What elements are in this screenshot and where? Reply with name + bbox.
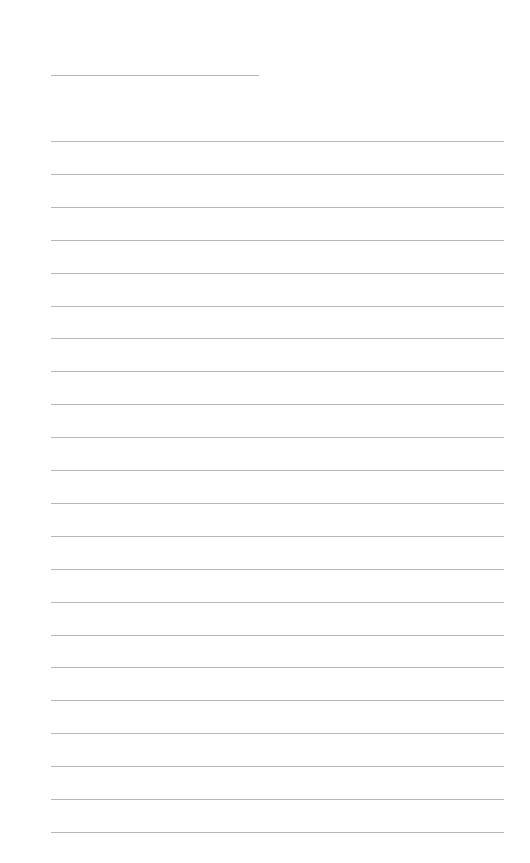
ruled-line [51, 733, 504, 734]
ruled-line [51, 766, 504, 767]
ruled-line [51, 799, 504, 800]
ruled-line [51, 174, 504, 175]
ruled-line [51, 635, 504, 636]
ruled-line [51, 141, 504, 142]
ruled-line [51, 667, 504, 668]
ruled-line [51, 404, 504, 405]
ruled-line [51, 273, 504, 274]
ruled-line [51, 371, 504, 372]
ruled-line [51, 569, 504, 570]
header-line [51, 75, 259, 76]
ruled-line [51, 602, 504, 603]
ruled-line [51, 306, 504, 307]
ruled-line [51, 470, 504, 471]
ruled-line [51, 207, 504, 208]
ruled-line [51, 700, 504, 701]
ruled-line [51, 338, 504, 339]
ruled-line [51, 536, 504, 537]
ruled-line [51, 240, 504, 241]
ruled-line [51, 503, 504, 504]
ruled-line [51, 437, 504, 438]
ruled-line [51, 832, 504, 833]
